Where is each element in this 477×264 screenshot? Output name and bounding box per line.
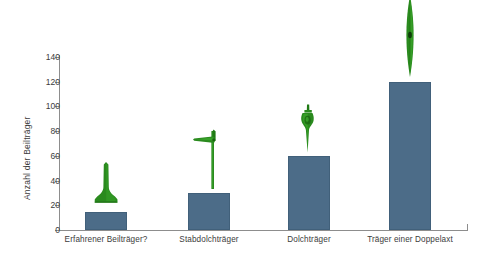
y-tick-80: 80 bbox=[0, 131, 60, 132]
bar-erfahrener-beiltraeger[interactable] bbox=[85, 212, 127, 231]
x-tick-label-erfahrener-beiltraeger: Erfahrener Beilträger? bbox=[65, 235, 148, 244]
y-tick-label: 40 bbox=[20, 177, 60, 186]
y-tick-label: 60 bbox=[20, 152, 60, 161]
y-tick-label: 20 bbox=[20, 201, 60, 210]
y-tick-40: 40 bbox=[0, 181, 60, 182]
double-axe-icon bbox=[400, 0, 420, 78]
y-tick-label: 80 bbox=[20, 127, 60, 136]
y-tick-60: 60 bbox=[0, 156, 60, 157]
y-tick-label: 140 bbox=[20, 53, 60, 62]
bar-traeger-einer-doppelaxt[interactable] bbox=[389, 82, 431, 230]
bar-chart-figure: Anzahl der Beilträger 140 120 100 80 60 … bbox=[0, 0, 477, 264]
y-tick-120: 120 bbox=[0, 82, 60, 83]
y-tick-140: 140 bbox=[0, 57, 60, 58]
y-tick-label: 0 bbox=[20, 226, 60, 235]
x-axis-line bbox=[59, 230, 468, 231]
bar-stabdolchtraeger[interactable] bbox=[188, 193, 230, 230]
x-tick-label-traeger-einer-doppelaxt: Träger einer Doppelaxt bbox=[367, 235, 453, 244]
y-tick-label: 100 bbox=[20, 102, 60, 111]
x-tick-label-dolchtraeger: Dolchträger bbox=[287, 235, 330, 244]
bar-dolchtraeger[interactable] bbox=[288, 156, 330, 230]
halberd-icon bbox=[192, 128, 226, 190]
flanged-axe-icon bbox=[93, 161, 119, 211]
y-tick-100: 100 bbox=[0, 106, 60, 107]
dagger-icon bbox=[296, 104, 320, 154]
y-tick-20: 20 bbox=[0, 205, 60, 206]
x-axis-end-cap bbox=[467, 224, 468, 231]
x-tick-label-stabdolchtraeger: Stabdolchträger bbox=[179, 235, 238, 244]
y-tick-0: 0 bbox=[0, 230, 60, 231]
y-tick-label: 120 bbox=[20, 78, 60, 87]
